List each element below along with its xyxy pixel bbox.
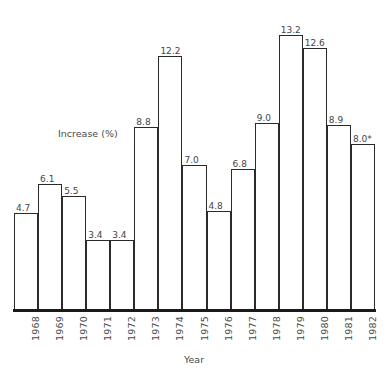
bar-value-label: 6.8 [232, 160, 247, 169]
bar-value-label: 5.5 [63, 187, 78, 196]
bar-value-label: 4.7 [15, 204, 30, 213]
x-tick-1974: 1974 [174, 316, 185, 341]
bar-1977[interactable]: 6.8 [231, 169, 255, 311]
bar-value-label: 6.1 [39, 175, 54, 184]
bar-1980[interactable]: 12.6 [303, 48, 327, 311]
bar-value-label: 13.2 [280, 26, 301, 35]
chart-title: INCREASE IN CONSUMER PRICE INDEX [0, 0, 388, 4]
x-tick-1976: 1976 [223, 316, 234, 341]
bar-value-label: 9.0 [256, 114, 271, 123]
x-tick-1977: 1977 [247, 316, 258, 341]
bar-1978[interactable]: 9.0 [255, 123, 279, 311]
x-tick-1972: 1972 [126, 316, 137, 341]
bar-1979[interactable]: 13.2 [279, 35, 303, 311]
bar-1971[interactable]: 3.4 [86, 240, 110, 311]
bar-1982[interactable]: 8.0* [351, 144, 375, 311]
bar-value-label: 3.4 [87, 231, 102, 240]
bar-1976[interactable]: 4.8 [207, 211, 231, 311]
x-tick-1970: 1970 [78, 316, 89, 341]
x-axis-line [13, 309, 376, 312]
bar-1968[interactable]: 4.7 [14, 213, 38, 311]
x-axis-label: Year [0, 354, 388, 365]
x-tick-1979: 1979 [295, 316, 306, 341]
bar-1972[interactable]: 3.4 [110, 240, 134, 311]
bar-1969[interactable]: 6.1 [38, 184, 62, 311]
bar-value-label: 8.0* [352, 135, 372, 144]
bar-value-label: 8.9 [328, 116, 343, 125]
x-tick-1971: 1971 [102, 316, 113, 341]
bar-1975[interactable]: 7.0 [182, 165, 206, 311]
bar-value-label: 12.6 [304, 39, 325, 48]
bar-1973[interactable]: 8.8 [134, 127, 158, 311]
x-tick-1978: 1978 [271, 316, 282, 341]
bar-value-label: 4.8 [208, 202, 223, 211]
bar-value-label: 3.4 [111, 231, 126, 240]
x-tick-1968: 1968 [30, 316, 41, 341]
x-tick-1969: 1969 [54, 316, 65, 341]
plot-area: Increase (%) 4.76.15.53.43.48.812.27.04.… [14, 8, 375, 311]
x-tick-1973: 1973 [150, 316, 161, 341]
x-tick-1981: 1981 [343, 316, 354, 341]
x-tick-1975: 1975 [199, 316, 210, 341]
y-axis-label: Increase (%) [58, 128, 118, 139]
bar-value-label: 7.0 [183, 156, 198, 165]
bar-1970[interactable]: 5.5 [62, 196, 86, 311]
bar-1981[interactable]: 8.9 [327, 125, 351, 311]
x-tick-1980: 1980 [319, 316, 330, 341]
x-tick-1982: 1982 [367, 316, 378, 341]
bar-value-label: 12.2 [159, 47, 180, 56]
bar-1974[interactable]: 12.2 [158, 56, 182, 311]
bar-value-label: 8.8 [135, 118, 150, 127]
